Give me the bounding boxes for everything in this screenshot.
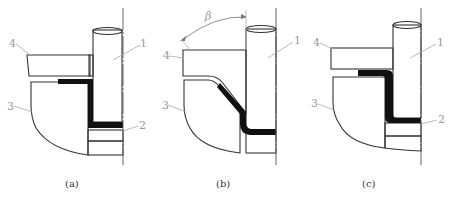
blank-holder bbox=[27, 55, 90, 76]
sheet-material bbox=[58, 79, 123, 128]
lower-ring bbox=[385, 136, 421, 151]
panel-c: 4 3 1 2 (c) bbox=[311, 8, 445, 189]
punch bbox=[393, 25, 421, 118]
sheet-material bbox=[358, 70, 421, 123]
ejector-ring bbox=[88, 130, 123, 141]
die bbox=[333, 77, 385, 148]
punch-top bbox=[93, 28, 122, 35]
caption-a: (a) bbox=[65, 178, 79, 189]
blank-holder bbox=[331, 48, 393, 69]
panel-a: 4 3 1 2 (a) bbox=[7, 8, 147, 189]
die bbox=[184, 80, 240, 153]
drawing-process-diagram: 4 3 1 2 (a) β 4 3 1 (b) bbox=[0, 0, 453, 197]
lower-ring bbox=[88, 141, 123, 155]
label-1: 1 bbox=[437, 36, 444, 49]
arrow-head-left bbox=[180, 36, 186, 41]
label-3: 3 bbox=[162, 99, 169, 112]
label-1: 1 bbox=[294, 34, 301, 47]
angle-arc bbox=[182, 17, 246, 40]
label-2: 2 bbox=[438, 113, 445, 126]
punch bbox=[93, 30, 122, 122]
ejector-ring bbox=[385, 123, 421, 136]
label-2: 2 bbox=[139, 119, 146, 132]
die bbox=[31, 82, 88, 155]
angle-beta-label: β bbox=[204, 10, 211, 23]
label-3: 3 bbox=[7, 100, 14, 113]
label-4: 4 bbox=[163, 49, 170, 62]
caption-c: (c) bbox=[362, 178, 376, 189]
label-4: 4 bbox=[313, 36, 320, 49]
panel-b: β 4 3 1 (b) bbox=[162, 8, 301, 189]
caption-b: (b) bbox=[216, 178, 230, 189]
label-1: 1 bbox=[140, 37, 147, 50]
label-4: 4 bbox=[9, 37, 16, 50]
label-3: 3 bbox=[311, 97, 318, 110]
